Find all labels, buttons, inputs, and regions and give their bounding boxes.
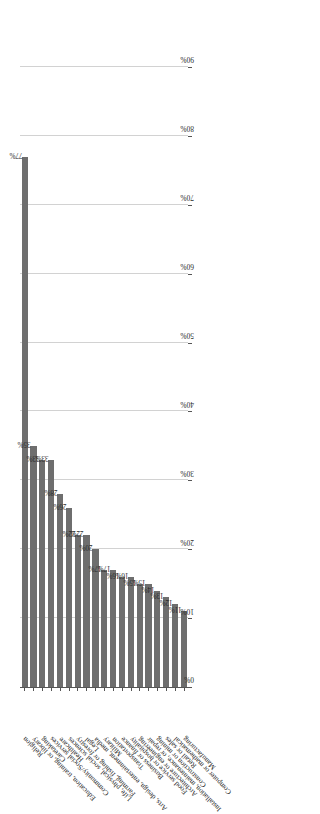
bar	[137, 584, 143, 687]
value-tick	[188, 205, 192, 206]
bar	[75, 535, 81, 687]
value-tick	[188, 480, 192, 481]
bar-value-label: 11%	[169, 604, 182, 613]
category-axis-labels: ReligionEducation, training, or libraryC…	[20, 688, 188, 736]
bar-value-label: 35%	[18, 438, 31, 447]
bar-value-label: 20%	[80, 542, 93, 551]
value-tick-label: 90%	[180, 56, 194, 65]
bar	[22, 157, 28, 687]
bar-value-label: 26%	[53, 500, 66, 509]
value-tick-label: 80%	[180, 124, 194, 133]
bar	[101, 570, 107, 687]
value-tick-label: 40%	[180, 400, 194, 409]
plot-area: 77%35%33%33%28%26%22%22%20%17%17%16%16%1…	[20, 68, 188, 688]
value-tick-label: 20%	[180, 538, 194, 547]
value-tick-label: 10%	[180, 607, 194, 616]
bar	[83, 535, 89, 687]
value-tick	[188, 618, 192, 619]
bar-value-label: 28%	[44, 487, 57, 496]
value-tick	[188, 274, 192, 275]
value-tick-label: 0%	[184, 676, 194, 685]
bar-value-label: 22%	[71, 528, 84, 537]
value-tick-label: 60%	[180, 262, 194, 271]
bar	[128, 577, 134, 687]
value-tick	[188, 687, 192, 688]
bar	[57, 494, 63, 687]
value-tick-label: 50%	[180, 331, 194, 340]
bar-value-label: 33%	[36, 452, 49, 461]
value-tick-label: 30%	[180, 469, 194, 478]
value-tick-label: 70%	[180, 193, 194, 202]
bar	[119, 577, 125, 687]
value-tick	[188, 411, 192, 412]
bar-value-label: 77%	[9, 149, 22, 158]
value-tick	[188, 343, 192, 344]
bar	[172, 604, 178, 687]
bar	[110, 570, 116, 687]
value-tick	[188, 67, 192, 68]
value-tick	[188, 136, 192, 137]
bar	[145, 584, 151, 687]
value-tick	[188, 549, 192, 550]
bar	[30, 446, 36, 687]
value-axis: 0%10%20%30%40%50%60%70%80%90%	[188, 68, 228, 688]
